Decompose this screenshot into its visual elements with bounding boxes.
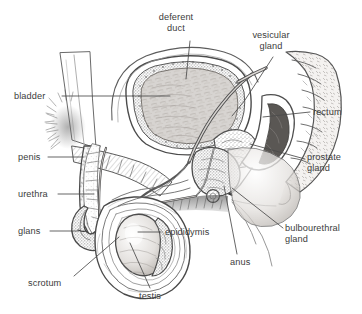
label-epididymis: epididymis [165, 227, 227, 238]
label-deferent-duct: deferent duct [148, 12, 204, 34]
label-scrotum: scrotum [28, 278, 84, 289]
label-anus: anus [230, 257, 270, 268]
label-glans: glans [18, 226, 58, 237]
anatomy-figure: deferent duct vesicular gland bladder re… [0, 0, 362, 314]
label-urethra: urethra [18, 189, 66, 200]
label-prostate-gland: prostate gland [307, 152, 362, 174]
label-bulbourethral-gland: bulbourethral gland [285, 223, 357, 245]
label-testis: testis [139, 291, 181, 302]
label-rectum: rectum [313, 107, 361, 118]
label-penis: penis [18, 152, 58, 163]
illustration-body [45, 41, 341, 299]
label-bladder: bladder [14, 91, 64, 102]
gluteal-mass [228, 148, 300, 227]
label-vesicular-gland: vesicular gland [240, 30, 302, 52]
